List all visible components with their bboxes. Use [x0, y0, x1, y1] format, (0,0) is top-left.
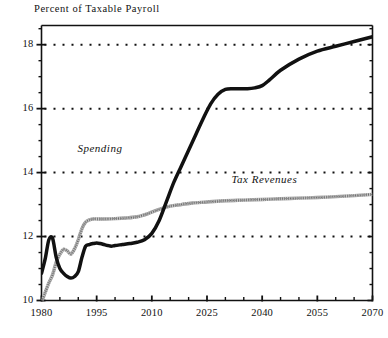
y-tick-label: 18	[8, 38, 34, 49]
x-tick-label: 2025	[185, 307, 229, 318]
y-tick-label: 16	[8, 102, 34, 113]
y-tick-label: 12	[8, 230, 34, 241]
x-tick-label: 1980	[20, 307, 64, 318]
x-tick-label: 1995	[75, 307, 119, 318]
y-tick-label: 14	[8, 166, 34, 177]
series-label-spending: Spending	[77, 142, 122, 154]
y-tick-label: 10	[8, 294, 34, 305]
chart-container: Percent of Taxable Payroll 1012141618 19…	[0, 0, 388, 338]
x-tick-label: 2055	[295, 307, 339, 318]
series-spending-line	[42, 37, 373, 278]
chart-plot-area	[0, 0, 388, 338]
plot-frame	[42, 26, 373, 301]
x-tick-label: 2040	[240, 307, 284, 318]
x-tick-label: 2010	[130, 307, 174, 318]
axis-ticks	[37, 29, 373, 302]
series-label-tax-revenues: Tax Revenues	[232, 173, 298, 185]
gridlines	[45, 45, 372, 237]
x-tick-label: 2070	[351, 307, 388, 318]
series-tax-revenues-line	[42, 194, 373, 302]
